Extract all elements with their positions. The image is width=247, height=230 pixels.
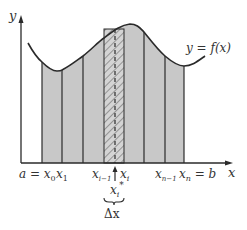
width-brace-icon	[104, 198, 124, 205]
sample-rectangle	[104, 29, 124, 163]
x-axis-label: x	[228, 165, 236, 180]
curve-label: y = f(x)	[185, 41, 231, 55]
tick-labels: a = x0 x1 xi−1 xi xn−1 xn = b	[19, 167, 216, 183]
svg-text:x1: x1	[56, 167, 68, 183]
svg-text:xi−1: xi−1	[92, 167, 111, 183]
sample-point-label: xi*	[110, 180, 124, 199]
y-axis-arrow-icon	[19, 15, 24, 23]
sample-point-arrow-icon	[113, 166, 118, 181]
svg-text:a = x0: a = x0	[19, 167, 56, 183]
svg-text:xn = b: xn = b	[179, 167, 216, 183]
riemann-sum-diagram: y x y = f(x) a = x0 x1 xi−1 xi xn−1 xn =…	[0, 0, 247, 230]
svg-text:xn−1: xn−1	[155, 167, 177, 183]
y-axis-label: y	[8, 8, 17, 23]
width-label: Δx	[104, 207, 120, 221]
